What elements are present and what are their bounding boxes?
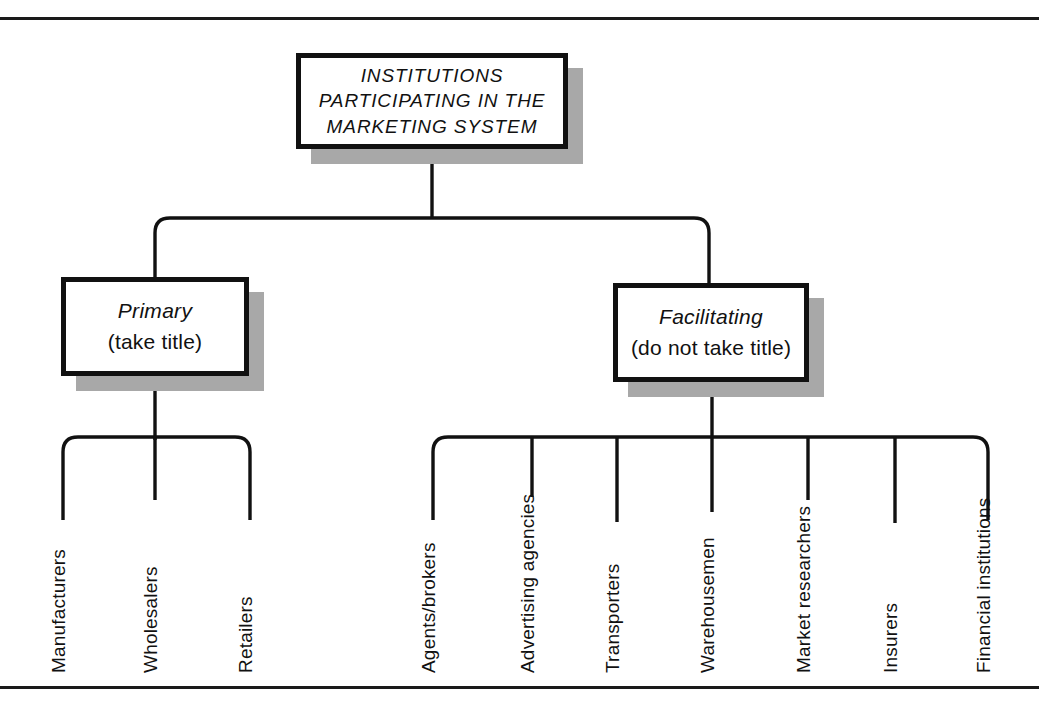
root-node-line-2: PARTICIPATING IN THE xyxy=(319,88,546,114)
facilitating-node-subtitle: (do not take title) xyxy=(631,334,791,362)
primary-node: Primary (take title) xyxy=(61,277,249,376)
leaf-label-financial-institutions: Financial institutions xyxy=(973,498,995,673)
leaf-label-manufacturers: Manufacturers xyxy=(48,549,70,673)
leaf-label-wholesalers: Wholesalers xyxy=(140,566,162,673)
facilitating-node: Facilitating (do not take title) xyxy=(613,283,809,382)
root-node: INSTITUTIONS PARTICIPATING IN THE MARKET… xyxy=(296,53,568,149)
leaf-label-warehousemen: Warehousemen xyxy=(697,537,719,673)
root-node-line-3: MARKETING SYSTEM xyxy=(327,114,538,140)
leaf-label-insurers: Insurers xyxy=(880,603,902,673)
marketing-institutions-diagram: INSTITUTIONS PARTICIPATING IN THE MARKET… xyxy=(0,0,1039,706)
leaf-label-retailers: Retailers xyxy=(235,596,257,673)
leaf-label-agents-brokers: Agents/brokers xyxy=(418,542,440,673)
primary-node-subtitle: (take title) xyxy=(108,328,203,356)
facilitating-node-title: Facilitating xyxy=(659,303,763,331)
leaf-label-transporters: Transporters xyxy=(602,564,624,673)
root-node-line-1: INSTITUTIONS xyxy=(361,63,504,89)
leaf-label-market-researchers: Market researchers xyxy=(793,506,815,673)
primary-node-title: Primary xyxy=(118,297,192,325)
leaf-label-advertising-agencies: Advertising agencies xyxy=(517,494,539,673)
top-bracket xyxy=(155,218,709,283)
